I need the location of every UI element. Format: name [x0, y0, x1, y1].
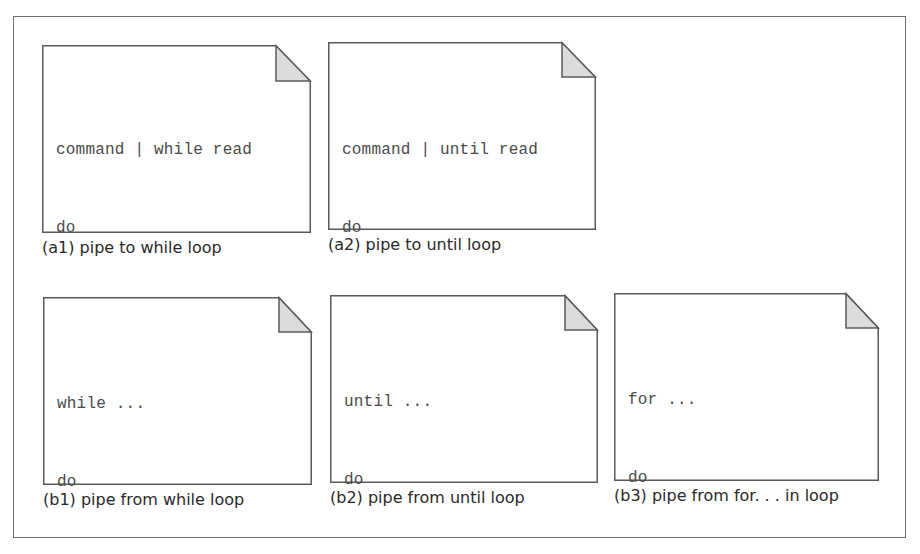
- folded-corner-icon: [846, 294, 878, 328]
- document-panel-b2: until ... do ... done | command (b2) pip…: [330, 295, 598, 483]
- code-line: for ...: [628, 387, 765, 413]
- code-line: ...: [57, 547, 194, 554]
- panel-caption: (b1) pipe from while loop: [43, 490, 244, 509]
- folded-corner-icon: [565, 296, 597, 330]
- folded-corner-icon: [562, 43, 595, 77]
- folded-corner-icon: [279, 298, 311, 332]
- code-line: ...: [628, 543, 765, 554]
- document-panel-b1: while ... do ... done | command (b1) pip…: [43, 297, 312, 485]
- code-block: while ... do ... done | command: [57, 339, 194, 554]
- panel-caption: (b2) pipe from until loop: [330, 488, 525, 507]
- code-line: while ...: [57, 391, 194, 417]
- code-line: command | until read: [342, 137, 538, 163]
- code-block: for ... do ... done | command: [628, 335, 765, 554]
- code-line: until ...: [344, 389, 481, 415]
- code-line: ...: [344, 545, 481, 554]
- document-panel-b3: for ... do ... done | command (b3) pipe …: [614, 293, 879, 481]
- code-block: until ... do ... done | command: [344, 337, 481, 554]
- panel-caption: (a2) pipe to until loop: [328, 235, 501, 254]
- document-panel-a2: command | until read do ... done (a2) pi…: [328, 42, 596, 230]
- panel-caption: (b3) pipe from for. . . in loop: [614, 486, 839, 505]
- panel-caption: (a1) pipe to while loop: [42, 238, 222, 257]
- folded-corner-icon: [276, 46, 310, 81]
- code-line: command | while read: [56, 137, 252, 163]
- document-panel-a1: command | while read do ... done (a1) pi…: [42, 45, 311, 233]
